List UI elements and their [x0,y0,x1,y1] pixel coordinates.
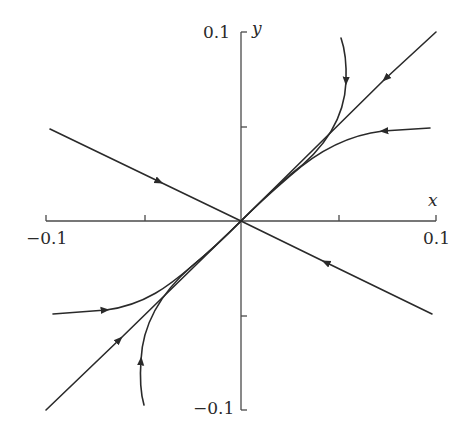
eigenline-negative-upper [50,129,160,182]
trajectory-lower-steep [141,221,241,360]
trajectory-upper-shallow [241,131,383,221]
trajectory-upper-steep-head [341,38,346,82]
trajectory-upper-shallow-head [383,128,430,131]
y-axis-label: y [252,20,262,37]
trajectory-lower-shallow-head [53,310,106,314]
eigenline-negative-upper-rest [160,182,241,221]
phase-portrait [0,0,466,437]
x-min-label: −0.1 [26,230,67,247]
x-axis-label: x [428,192,438,209]
eigenline-negative-lower-rest [241,221,325,262]
eigenline-positive-upper [385,32,436,79]
trajectory-lower-shallow [106,221,241,310]
y-max-label: 0.1 [203,24,230,41]
x-max-label: 0.1 [423,230,450,247]
eigenline-positive-lower [46,339,120,410]
y-min-label: −0.1 [193,400,234,417]
eigenline-negative-lower [325,262,432,314]
trajectory-lower-steep-head [140,360,144,405]
trajectory-upper-steep [241,82,346,221]
